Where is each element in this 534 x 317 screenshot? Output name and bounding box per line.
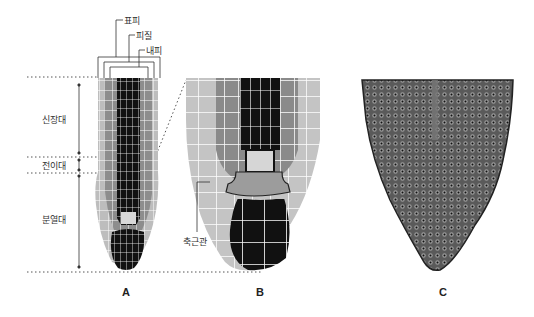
label-epidermis: 표피 <box>124 14 140 27</box>
label-elongation-zone: 신장대 <box>42 113 66 126</box>
root-tip-diagram <box>0 0 534 317</box>
label-endodermis: 내피 <box>146 44 162 57</box>
zone-brackets <box>78 84 80 268</box>
panel-c-micrograph <box>362 80 513 270</box>
label-cortex: 피질 <box>136 29 152 42</box>
panel-label-c: C <box>439 286 447 298</box>
panel-label-a: A <box>122 286 130 298</box>
label-meristem-zone: 분열대 <box>42 213 66 226</box>
panel-label-b: B <box>256 286 264 298</box>
panel-a-root <box>95 78 158 270</box>
label-transition-zone: 전이대 <box>42 159 66 172</box>
label-columella: 축근관 <box>183 235 207 248</box>
